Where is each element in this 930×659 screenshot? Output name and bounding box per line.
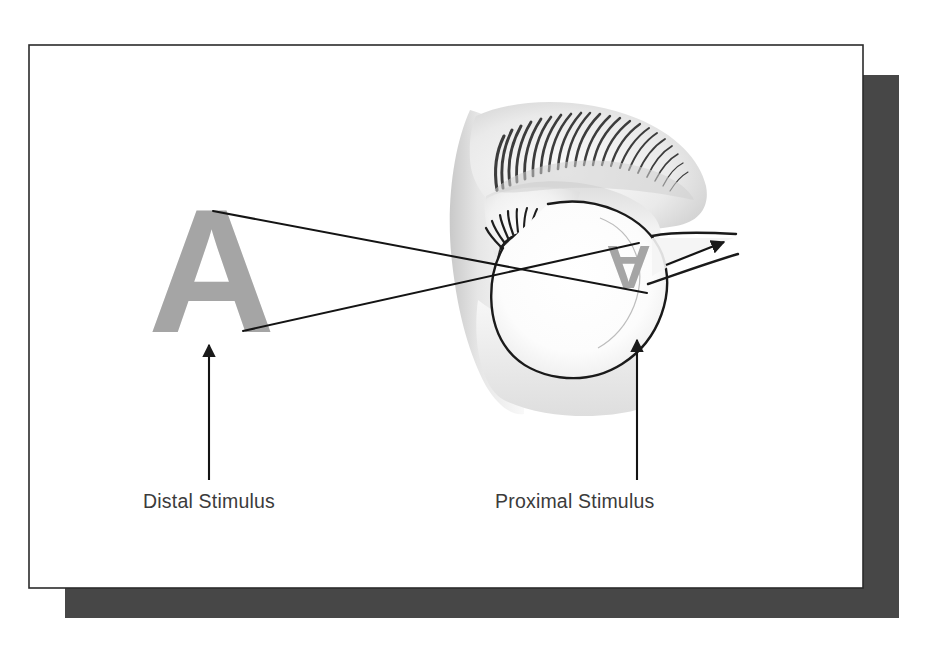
proximal-stimulus-label: Proximal Stimulus: [495, 490, 654, 512]
distal-stimulus-label: Distal Stimulus: [143, 490, 275, 512]
figure-stage: A A Distal Stimulus Proximal Stimulus: [0, 0, 930, 659]
distal-stimulus-letter: A: [148, 173, 275, 369]
illustration-canvas: A A Distal Stimulus Proximal Stimulus: [0, 0, 930, 659]
